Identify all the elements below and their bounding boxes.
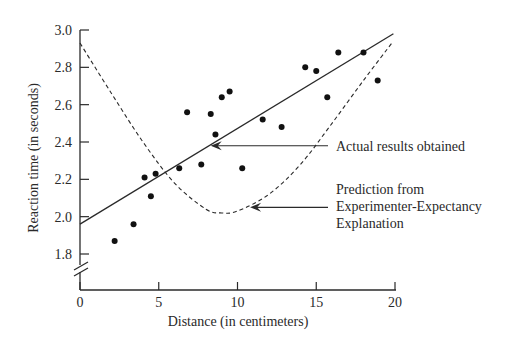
data-point [375,77,381,83]
data-point [153,171,159,177]
data-point [219,94,225,100]
y-tick-label: 2.8 [55,60,73,75]
data-point [227,89,233,95]
annotation-prediction: Prediction from [336,182,424,197]
y-axis-ticks: 1.82.02.22.42.62.83.0 [55,23,90,262]
annotation-actual-results: Actual results obtained [336,139,465,154]
data-point [212,132,218,138]
data-point [148,193,154,199]
scatter-chart: 05101520 1.82.02.22.42.62.83.0 Actual re… [0,0,508,341]
annotations: Actual results obtainedPrediction fromEx… [211,139,482,232]
x-tick-label: 15 [309,295,323,310]
data-point [176,165,182,171]
data-point [324,94,330,100]
data-point [239,165,245,171]
data-point [112,238,118,244]
x-axis-label: Distance (in centimeters) [168,314,309,330]
data-point [184,109,190,115]
data-point [198,161,204,167]
data-point [313,68,319,74]
data-point [142,174,148,180]
x-tick-label: 20 [388,295,402,310]
y-tick-label: 2.6 [55,98,73,113]
data-point [260,117,266,123]
y-tick-label: 2.0 [55,210,73,225]
x-tick-label: 0 [77,295,84,310]
axes [74,30,396,290]
x-axis-ticks: 05101520 [77,282,403,310]
x-tick-label: 5 [155,295,162,310]
x-tick-label: 10 [231,295,245,310]
data-point [279,124,285,130]
y-tick-label: 2.4 [55,135,73,150]
data-point [361,49,367,55]
data-point [208,111,214,117]
data-point [131,221,137,227]
data-point [335,49,341,55]
y-tick-label: 2.2 [55,172,73,187]
y-tick-label: 3.0 [55,23,73,38]
y-axis-label: Reaction time (in seconds) [26,83,42,233]
annotation-prediction: Explanation [336,216,404,231]
annotation-prediction: Experimenter-Expectancy [336,199,482,214]
y-tick-label: 1.8 [55,247,73,262]
data-point [302,64,308,70]
